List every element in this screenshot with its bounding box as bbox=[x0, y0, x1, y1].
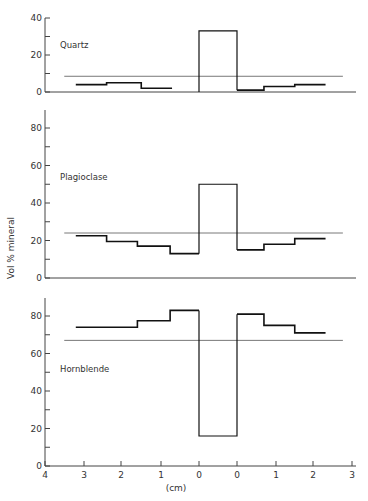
x-axis-label: (cm) bbox=[166, 483, 187, 493]
y-tick-label: 0 bbox=[36, 87, 42, 97]
x-tick-label: 0 bbox=[234, 470, 240, 480]
panel-hornblende: 020406080Hornblende bbox=[31, 298, 356, 471]
center-profile bbox=[199, 310, 237, 436]
chart-panels: 02040Quartz020406080Plagioclase020406080… bbox=[31, 13, 356, 471]
y-tick-label: 20 bbox=[31, 50, 43, 60]
panel-plagioclase: 020406080Plagioclase bbox=[31, 110, 356, 283]
x-tick-label: 1 bbox=[158, 470, 164, 480]
y-tick-label: 60 bbox=[31, 349, 43, 359]
x-tick-label: 3 bbox=[81, 470, 87, 480]
right-profile bbox=[237, 239, 326, 250]
x-axis: 432100123 bbox=[42, 461, 355, 480]
x-tick-label: 2 bbox=[118, 470, 124, 480]
center-profile bbox=[199, 31, 237, 92]
y-tick-label: 0 bbox=[36, 273, 42, 283]
y-tick-label: 20 bbox=[31, 424, 43, 434]
x-tick-label: 1 bbox=[273, 470, 279, 480]
y-tick-label: 40 bbox=[31, 13, 43, 23]
mineral-label: Quartz bbox=[60, 40, 89, 50]
panel-quartz: 02040Quartz bbox=[31, 13, 356, 97]
right-profile bbox=[237, 85, 326, 91]
center-profile bbox=[199, 184, 237, 253]
left-profile bbox=[76, 83, 172, 89]
left-profile bbox=[76, 236, 199, 254]
x-tick-label: 3 bbox=[349, 470, 355, 480]
y-tick-label: 60 bbox=[31, 161, 43, 171]
y-tick-label: 20 bbox=[31, 236, 43, 246]
y-tick-label: 40 bbox=[31, 198, 43, 208]
y-tick-label: 80 bbox=[31, 123, 43, 133]
x-tick-label: 4 bbox=[42, 470, 48, 480]
x-tick-label: 2 bbox=[310, 470, 316, 480]
mineral-profile-chart: 02040Quartz020406080Plagioclase020406080… bbox=[0, 0, 368, 501]
left-profile bbox=[76, 310, 199, 327]
y-axis-label: Vol % mineral bbox=[6, 217, 16, 279]
x-tick-label: 0 bbox=[196, 470, 202, 480]
mineral-label: Hornblende bbox=[60, 364, 109, 374]
right-profile bbox=[237, 314, 326, 333]
y-tick-label: 80 bbox=[31, 311, 43, 321]
mineral-label: Plagioclase bbox=[60, 172, 108, 182]
y-tick-label: 40 bbox=[31, 386, 43, 396]
